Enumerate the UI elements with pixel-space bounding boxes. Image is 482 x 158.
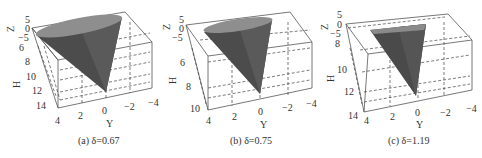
h-tick: 6	[19, 42, 24, 53]
caption-c: (c) δ=1.19	[388, 135, 429, 146]
y-tick: 2	[232, 111, 237, 122]
panel-c: 5 0 −5 Z 8 10 12 14 H 4 2 0 −2 −4 Y (c) …	[320, 0, 482, 158]
y-axis-label: Y	[106, 118, 113, 129]
h-tick: 12	[344, 86, 354, 97]
h-tick: 10	[337, 64, 347, 75]
z-tick: −5	[172, 32, 183, 43]
y-tick: −2	[282, 102, 293, 113]
h-tick: 14	[36, 100, 46, 111]
y-tick: 0	[415, 107, 420, 118]
h-tick: 6	[180, 57, 185, 68]
y-tick: −2	[124, 101, 135, 112]
h-tick: 8	[186, 81, 191, 92]
h-tick: 10	[190, 103, 200, 114]
h-tick: 12	[32, 85, 42, 96]
h-axis-label: H	[167, 77, 178, 84]
y-tick: 0	[102, 105, 107, 116]
y-tick: −2	[440, 107, 451, 118]
caption-b: (b) δ=0.75	[230, 135, 272, 146]
y-tick: 4	[206, 115, 211, 126]
h-tick: 10	[26, 71, 36, 82]
h-tick: 8	[25, 56, 30, 67]
y-tick: 2	[390, 111, 395, 122]
z-axis-label: Z	[320, 24, 330, 30]
z-axis-label: Z	[161, 24, 172, 30]
h-tick: 14	[348, 110, 358, 121]
caption-a: (a) δ=0.67	[78, 135, 119, 146]
h-axis-label: H	[325, 75, 336, 82]
y-tick: 0	[258, 106, 263, 117]
y-tick: −4	[306, 98, 317, 109]
y-tick: −4	[466, 103, 477, 114]
y-tick: 4	[55, 115, 60, 126]
y-axis-label: Y	[260, 119, 267, 130]
h-tick: 8	[335, 38, 340, 49]
y-axis-label: Y	[416, 119, 423, 130]
y-tick: 4	[364, 115, 369, 126]
h-axis-label: H	[11, 81, 22, 88]
y-tick: −4	[148, 97, 159, 108]
y-tick: 2	[78, 110, 83, 121]
panel-a: 5 0 −5 Z 6 8 10 12 14 H 4 2 0 −2 −4 Y (a…	[0, 0, 165, 158]
z-axis-label: Z	[5, 26, 16, 32]
panel-b: 5 0 −5 Z 6 8 10 H 4 2 0 −2 −4 Y (b) δ=0.…	[160, 0, 325, 158]
